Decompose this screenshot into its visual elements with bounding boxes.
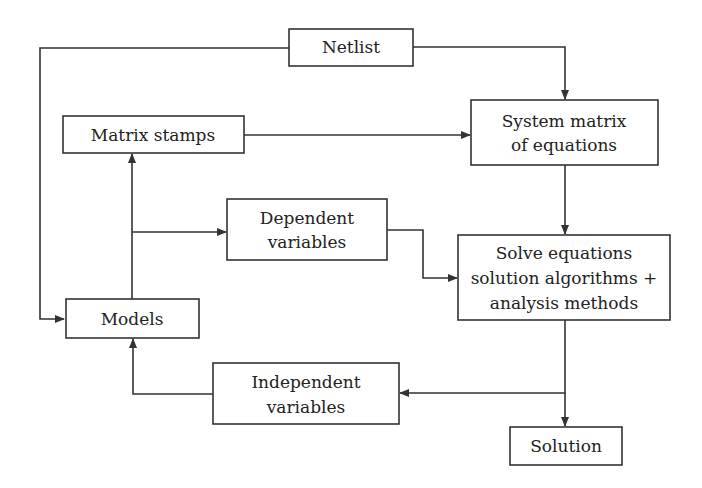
node-netlist: Netlist	[289, 29, 413, 66]
node-system-matrix: System matrix of equations	[471, 100, 658, 165]
node-label: Models	[101, 309, 164, 329]
node-solve-equations: Solve equations solution algorithms + an…	[458, 235, 670, 320]
node-label: System matrix	[502, 111, 627, 131]
node-label: Dependent	[260, 208, 354, 228]
node-label: of equations	[511, 135, 617, 155]
node-label: Independent	[251, 372, 360, 392]
node-label: variables	[267, 232, 347, 252]
node-solution: Solution	[510, 427, 622, 465]
node-models: Models	[66, 299, 199, 338]
node-label: analysis methods	[490, 293, 638, 313]
node-independent-variables: Independent variables	[213, 363, 399, 424]
edge-dependent-to-solve	[387, 230, 457, 278]
edge-netlist-to-models	[40, 48, 289, 319]
node-label: Solution	[530, 436, 602, 456]
edge-solve-to-independent	[400, 320, 565, 393]
node-label: Solve equations	[496, 243, 633, 263]
node-label: solution algorithms +	[471, 268, 658, 288]
node-label: Matrix stamps	[91, 125, 215, 145]
edge-independent-to-models	[133, 339, 213, 394]
node-label: Netlist	[322, 37, 380, 57]
node-label: variables	[266, 397, 346, 417]
node-matrix-stamps: Matrix stamps	[63, 116, 244, 153]
flow-diagram: Netlist Matrix stamps System matrix of e…	[0, 0, 702, 488]
edge-netlist-to-system-matrix	[413, 47, 565, 99]
node-dependent-variables: Dependent variables	[227, 199, 387, 260]
